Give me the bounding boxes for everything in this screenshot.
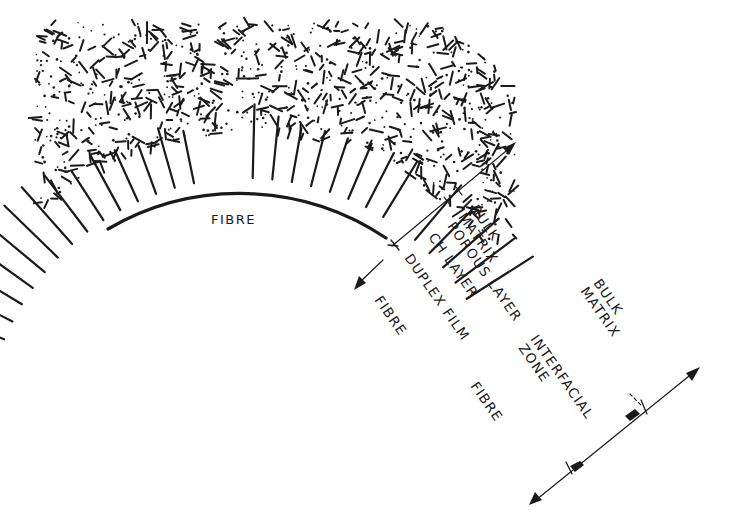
label-fibre-outer: FIBRE [468,379,507,425]
layer-labels: BULK MATRIX POROUS LAYER CH LAYER DUPLEX… [372,202,526,344]
axis-arrow-head-outward [503,142,516,155]
zone-labels: BULK MATRIX INTERFACIAL ZONE FIBRE [468,276,627,425]
label-fibre-inner: FIBRE [372,293,411,339]
scale-arrow-head-outward [686,367,700,381]
zone-scale [529,367,700,505]
bulk-matrix-texture [29,18,518,244]
scale-arrow-head-inward [529,492,542,505]
fibre-label: FIBRE [211,212,256,227]
interfacial-zone-diagram: FIBRE BULK MATRIX POROUS LAYER CH LAYER … [0,0,733,530]
